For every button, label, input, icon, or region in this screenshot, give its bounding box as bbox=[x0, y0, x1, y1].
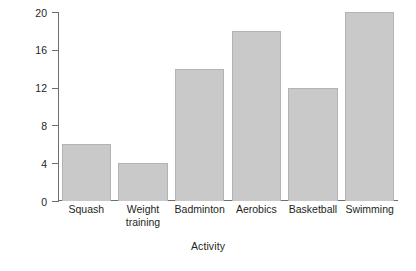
x-axis-category-label: Swimming bbox=[341, 203, 398, 216]
x-axis-category-label-line: Basketball bbox=[289, 203, 337, 215]
x-axis-category-labels: SquashWeighttrainingBadmintonAerobicsBas… bbox=[58, 203, 398, 237]
x-axis-category-label-line: training bbox=[115, 216, 172, 229]
bar-chart: Frequency 048121620 SquashWeighttraining… bbox=[0, 0, 416, 271]
y-axis-tick-label: 12 bbox=[35, 83, 47, 94]
bar-slot bbox=[345, 12, 395, 201]
bar bbox=[118, 163, 168, 201]
bar-slot bbox=[175, 12, 225, 201]
x-axis-category-label-line: Badminton bbox=[175, 203, 225, 215]
bar bbox=[345, 12, 395, 201]
x-axis-category-label: Weighttraining bbox=[115, 203, 172, 229]
x-axis-title: Activity bbox=[0, 240, 416, 252]
y-axis-tick-label: 20 bbox=[35, 7, 47, 18]
x-axis-category-label: Aerobics bbox=[228, 203, 285, 216]
bar bbox=[288, 88, 338, 201]
y-axis-tick-label: 16 bbox=[35, 45, 47, 56]
x-axis-category-label: Basketball bbox=[285, 203, 342, 216]
plot-area bbox=[58, 12, 398, 201]
bar-slot bbox=[232, 12, 282, 201]
x-axis-category-label-line: Squash bbox=[69, 203, 105, 215]
y-axis-tick-label: 8 bbox=[41, 121, 47, 132]
y-axis-tick-label: 0 bbox=[41, 196, 47, 207]
x-axis-category-label: Badminton bbox=[171, 203, 228, 216]
x-axis-category-label-line: Swimming bbox=[345, 203, 393, 215]
bar bbox=[175, 69, 225, 201]
bar-slot bbox=[62, 12, 112, 201]
bar bbox=[62, 144, 112, 201]
y-axis-tick-mark bbox=[52, 201, 59, 202]
bar-slot bbox=[118, 12, 168, 201]
y-axis-tick-label: 4 bbox=[41, 158, 47, 169]
x-axis-category-label-line: Weight bbox=[127, 203, 160, 215]
x-axis-category-label: Squash bbox=[58, 203, 115, 216]
x-axis-category-label-line: Aerobics bbox=[236, 203, 277, 215]
bar bbox=[232, 31, 282, 201]
bar-slot bbox=[288, 12, 338, 201]
